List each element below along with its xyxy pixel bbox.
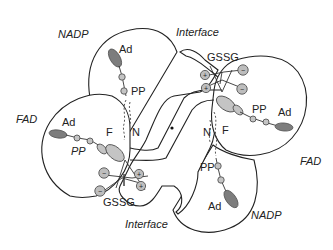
label-interface-bottom: Interface [125,219,168,230]
label-nadp-bottom: NADP [251,210,282,221]
pp-nadp-bottom-1 [215,163,221,169]
label-fad-right: FAD [300,156,321,167]
svg-text:+: + [137,171,141,178]
label-ad-nadp-bottom: Ad [208,201,221,212]
svg-text:−: − [240,86,244,93]
svg-text:−: − [98,188,102,195]
label-ad-fad-left: Ad [62,117,75,128]
label-fad-left: FAD [16,114,37,125]
label-n-top: N [132,127,140,138]
pp-fad-left-1 [74,135,80,141]
label-pp-fad-right: PP [252,104,267,115]
svg-text:+: + [204,85,208,92]
label-gssg-top: GSSG [207,52,239,63]
pp-fad-right-1 [250,116,256,122]
svg-text:−: − [241,67,245,74]
label-f-right: F [222,125,229,136]
label-gssg-bottom: GSSG [103,197,135,208]
pp-nadp-bottom-2 [218,177,224,183]
label-n-bottom: N [203,127,211,138]
label-nadp-top: NADP [58,29,89,40]
pp-nadp-top-1 [119,74,125,80]
label-pp-nadp-bottom: PP [200,162,215,173]
label-ad-nadp-top: Ad [119,44,132,55]
label-pp-fad-left: PP [71,146,86,157]
svg-text:+: + [203,72,207,79]
pp-nadp-top-2 [121,88,127,94]
pp-fad-left-2 [87,138,93,144]
label-f-left: F [106,127,113,138]
label-pp-nadp-top: PP [131,86,146,97]
center-marker [170,126,173,129]
pp-fad-right-2 [263,119,269,125]
svg-text:+: + [139,183,143,190]
label-ad-fad-right: Ad [278,107,291,118]
label-interface-top: Interface [176,27,219,38]
diagram-canvas: − − + + + + − − [0,0,333,250]
svg-text:−: − [102,170,106,177]
